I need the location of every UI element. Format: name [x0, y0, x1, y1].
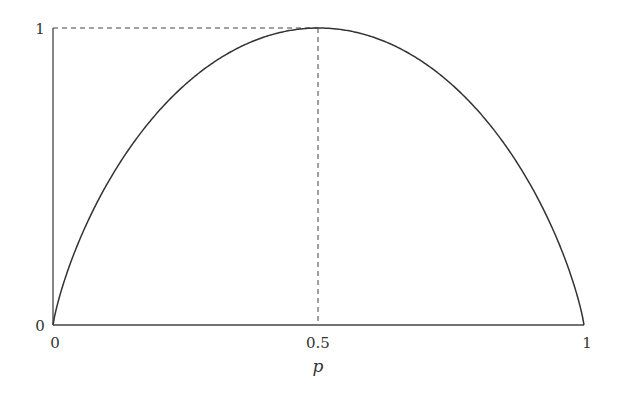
x-tick-0: 0: [50, 334, 60, 352]
y-tick-1: 1: [35, 20, 45, 38]
x-tick-1: 1: [582, 334, 592, 352]
x-axis-label: p: [313, 356, 324, 376]
entropy-chart: 1 0 0 0.5 1 p: [0, 0, 618, 409]
y-tick-0: 0: [35, 317, 45, 335]
x-tick-0-5: 0.5: [306, 334, 330, 352]
